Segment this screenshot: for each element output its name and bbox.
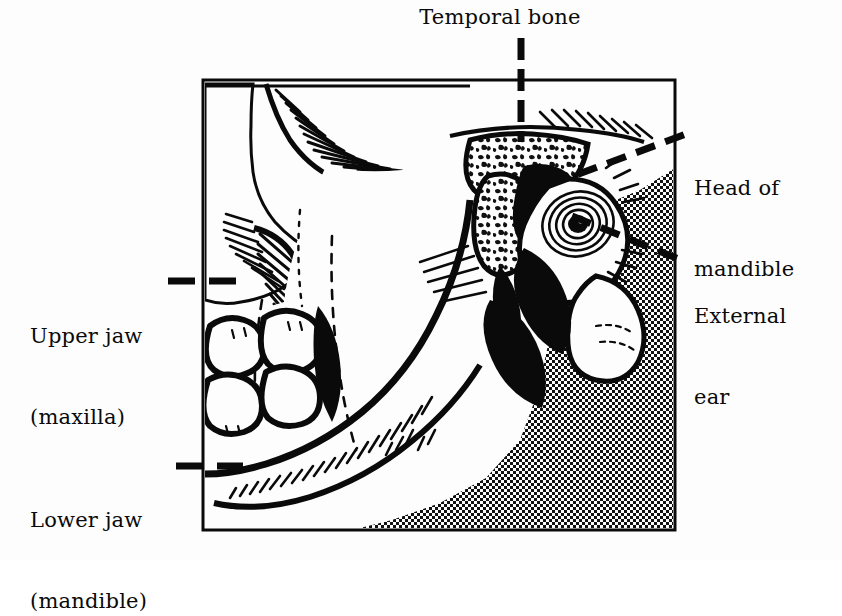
molar-lower-left (203, 374, 262, 434)
label-lower-jaw-line1: Lower jaw (30, 507, 230, 534)
label-upper-jaw-line2: (maxilla) (30, 404, 210, 431)
label-lower-jaw: Lower jaw (mandible) (30, 452, 230, 616)
molar-upper-left (206, 318, 264, 377)
molar-lower-right (261, 366, 320, 426)
molar-upper-right (261, 311, 322, 373)
label-external-ear: External ear (694, 248, 842, 466)
label-upper-jaw-line1: Upper jaw (30, 323, 210, 350)
ear-canal-opening (568, 215, 588, 233)
drawing-interior (203, 80, 675, 530)
label-temporal-bone: Temporal bone (390, 4, 610, 31)
label-head-of-mandible-line1: Head of (694, 175, 842, 202)
label-lower-jaw-line2: (mandible) (30, 588, 230, 615)
label-external-ear-line2: ear (694, 384, 842, 411)
label-external-ear-line1: External (694, 303, 842, 330)
